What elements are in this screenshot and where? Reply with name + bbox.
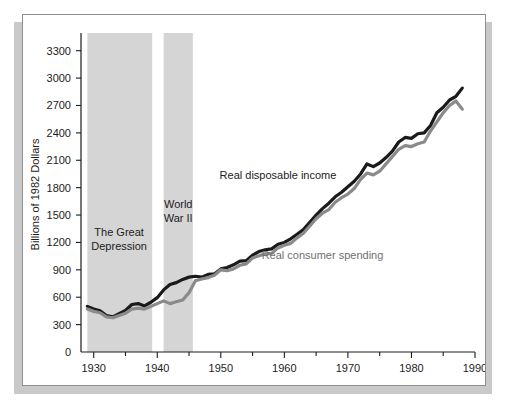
- y-tick-label-3000: 3000: [47, 72, 71, 84]
- y-tick-label-1500: 1500: [47, 209, 71, 221]
- y-tick-label-2100: 2100: [47, 154, 71, 166]
- y-tick-label-0: 0: [65, 346, 71, 358]
- series-label-1: Real consumer spending: [262, 249, 384, 261]
- series-label-0: Real disposable income: [220, 169, 337, 181]
- x-tick-label-1930: 1930: [81, 362, 105, 374]
- annotation-labels-group: Billions of 1982 DollarsThe GreatDepress…: [29, 138, 383, 261]
- x-tick-label-1990: 1990: [463, 362, 485, 374]
- band-label-1-line-0: World: [164, 198, 193, 210]
- y-tick-label-1800: 1800: [47, 182, 71, 194]
- y-tick-label-3300: 3300: [47, 45, 71, 57]
- line-chart: 0300600900120015001800210024002700300033…: [23, 15, 485, 385]
- y-tick-label-600: 600: [53, 291, 71, 303]
- y-tick-label-900: 900: [53, 264, 71, 276]
- chart-panel: 0300600900120015001800210024002700300033…: [22, 14, 486, 386]
- y-tick-label-2700: 2700: [47, 99, 71, 111]
- band-label-0-line-1: Depression: [91, 240, 147, 252]
- y-axis-title: Billions of 1982 Dollars: [29, 138, 41, 250]
- x-tick-label-1970: 1970: [336, 362, 360, 374]
- x-tick-label-1950: 1950: [209, 362, 233, 374]
- band-label-1-line-1: War II: [164, 212, 193, 224]
- x-tick-label-1960: 1960: [272, 362, 296, 374]
- x-tick-label-1980: 1980: [399, 362, 423, 374]
- band-label-0-line-0: The Great: [94, 226, 144, 238]
- y-tick-label-1200: 1200: [47, 236, 71, 248]
- x-tick-label-1940: 1940: [145, 362, 169, 374]
- y-tick-label-300: 300: [53, 319, 71, 331]
- figure-root: 0300600900120015001800210024002700300033…: [0, 0, 506, 403]
- y-tick-label-2400: 2400: [47, 127, 71, 139]
